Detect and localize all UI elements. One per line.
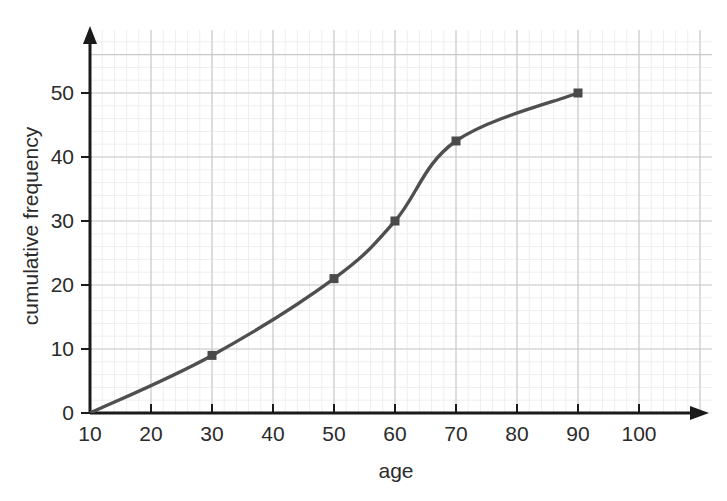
y-tick-label: 50	[51, 81, 74, 104]
data-point-marker	[574, 89, 583, 98]
x-axis-title: age	[378, 459, 413, 482]
y-tick-label: 20	[51, 273, 74, 296]
x-tick-label: 70	[444, 422, 467, 445]
x-tick-label: 40	[261, 422, 284, 445]
x-tick-label: 10	[78, 422, 101, 445]
y-tick-label: 0	[62, 401, 74, 424]
data-point-marker	[208, 351, 217, 360]
y-tick-label: 40	[51, 145, 74, 168]
y-tick-label: 30	[51, 209, 74, 232]
x-tick-label: 60	[383, 422, 406, 445]
x-tick-label: 90	[566, 422, 589, 445]
data-point-marker	[452, 137, 461, 146]
chart-background	[0, 0, 727, 501]
x-tick-label: 80	[505, 422, 528, 445]
x-tick-label: 50	[322, 422, 345, 445]
chart-canvas: 01020304050 102030405060708090100 age cu…	[0, 0, 727, 501]
data-point-marker	[330, 274, 339, 283]
data-point-marker	[391, 217, 400, 226]
cumulative-frequency-chart: 01020304050 102030405060708090100 age cu…	[0, 0, 727, 501]
x-tick-label: 100	[621, 422, 656, 445]
y-axis-title: cumulative frequency	[19, 126, 42, 325]
x-tick-label: 20	[139, 422, 162, 445]
x-tick-label: 30	[200, 422, 223, 445]
y-tick-label: 10	[51, 337, 74, 360]
